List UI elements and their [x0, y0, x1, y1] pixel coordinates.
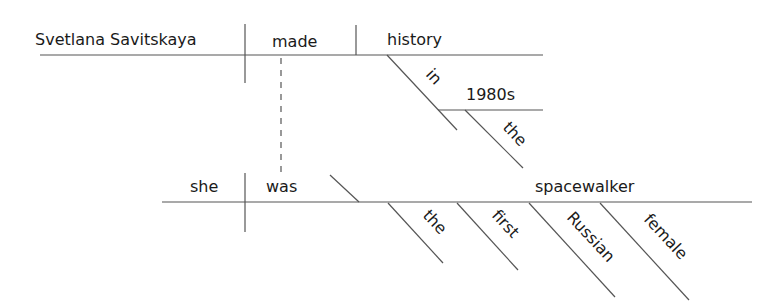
relative-subject: she: [190, 177, 218, 196]
prep-object-modifier: the: [499, 118, 531, 150]
predicate-nominative-modifiers: the first Russian female: [388, 203, 692, 300]
predicate-nominative-divider: [330, 175, 359, 202]
preposition-diagonal: [387, 55, 457, 130]
prepositional-phrase: in 1980s the: [387, 55, 543, 168]
main-verb: made: [272, 32, 317, 51]
main-subject: Svetlana Savitskaya: [35, 30, 197, 49]
relative-verb: was: [266, 177, 297, 196]
modifier-the: the: [419, 206, 451, 238]
modifier-russian: Russian: [563, 208, 619, 266]
relative-clause: she was spacewalker the first Russian fe…: [162, 173, 752, 300]
predicate-nominative: spacewalker: [535, 177, 635, 196]
main-clause: Svetlana Savitskaya made history in 1980…: [35, 24, 543, 168]
direct-object: history: [387, 30, 442, 49]
preposition: in: [422, 65, 446, 89]
modifier-first: first: [488, 206, 523, 242]
prep-object: 1980s: [466, 85, 515, 104]
sentence-diagram: Svetlana Savitskaya made history in 1980…: [0, 0, 776, 308]
